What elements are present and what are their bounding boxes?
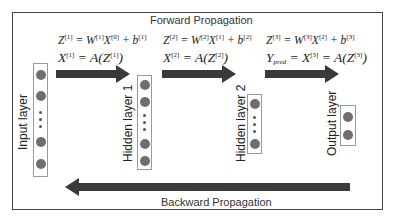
neuron-node xyxy=(250,139,260,149)
hidden-layer-2-label: Hidden layer 2 xyxy=(234,85,248,162)
hidden-layer-1-box xyxy=(137,75,152,170)
equation-layer-3: Z[3] = W[3]X[2] + b[3] Ypred = X[3] = A(… xyxy=(266,30,367,70)
backward-arrow xyxy=(65,178,350,196)
ellipsis-dot xyxy=(253,116,256,119)
ellipsis-dot xyxy=(253,123,256,126)
neuron-node xyxy=(36,70,46,80)
ellipsis-dot xyxy=(143,121,146,124)
ellipsis-dot xyxy=(39,118,42,121)
forward-arrow-2 xyxy=(162,65,236,83)
input-layer-box xyxy=(33,63,48,177)
input-layer-label: Input layer xyxy=(16,94,30,150)
forward-propagation-label: Forward Propagation xyxy=(150,14,253,26)
backward-propagation-label: Backward Propagation xyxy=(161,196,272,208)
ellipsis-dot xyxy=(39,111,42,114)
neuron-node xyxy=(140,156,150,166)
neuron-node xyxy=(36,159,46,169)
output-layer-label: Output layer xyxy=(325,91,339,156)
hidden-layer-1-label: Hidden layer 1 xyxy=(121,85,135,162)
neuron-node xyxy=(250,99,260,109)
ellipsis-dot xyxy=(143,128,146,131)
neuron-node xyxy=(36,137,46,147)
output-layer-box xyxy=(340,105,356,146)
neuron-node xyxy=(343,112,353,122)
neuron-node xyxy=(140,80,150,90)
forward-arrow-3 xyxy=(265,65,339,83)
ellipsis-dot xyxy=(143,114,146,117)
hidden-layer-2-box xyxy=(247,94,262,154)
ellipsis-dot xyxy=(253,130,256,133)
ellipsis-dot xyxy=(39,125,42,128)
neuron-node xyxy=(343,130,353,140)
equation-layer-2: Z[2] = W[2]X[1] + b[2] X[2] = A(Z[2]) xyxy=(163,30,251,65)
neuron-node xyxy=(36,91,46,101)
neuron-node xyxy=(140,97,150,107)
neuron-node xyxy=(140,139,150,149)
equation-layer-1: Z[1] = W[1]X[0] + b[1] X[1] = A(Z[1]) xyxy=(58,30,146,65)
forward-arrow-1 xyxy=(56,65,130,83)
